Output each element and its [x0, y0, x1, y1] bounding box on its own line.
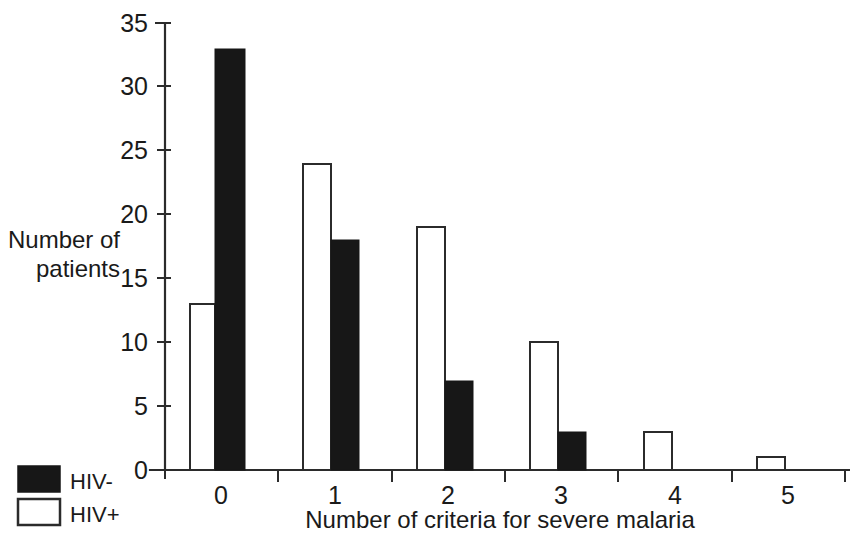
legend-label-hiv-positive: HIV+ [70, 502, 120, 527]
y-tick-label-10: 10 [120, 328, 148, 356]
bar-hivpos-cat1 [303, 164, 331, 470]
bar-hivpos-cat0 [190, 304, 215, 470]
x-tick-marks [165, 462, 845, 482]
x-tick-label-5: 5 [781, 481, 795, 509]
y-tick-label-0: 0 [134, 456, 148, 484]
legend-swatch-hiv-positive [18, 499, 60, 525]
bar-chart: 35 30 25 20 15 10 5 0 [0, 0, 850, 536]
y-tick-label-5: 5 [134, 392, 148, 420]
bar-hivpos-cat4 [644, 432, 672, 470]
legend: HIV- HIV+ [18, 466, 120, 527]
legend-swatch-hiv-negative [18, 466, 60, 492]
y-tick-label-35: 35 [120, 9, 148, 37]
y-tick-label-30: 30 [120, 72, 148, 100]
bar-hivneg-cat1 [331, 240, 359, 470]
bar-hivpos-cat3 [530, 342, 558, 470]
y-tick-label-25: 25 [120, 136, 148, 164]
bar-hivneg-cat2 [445, 381, 473, 470]
legend-label-hiv-negative: HIV- [70, 469, 113, 494]
x-tick-label-1: 1 [328, 481, 342, 509]
y-axis-title: Number of patients [8, 226, 120, 282]
bar-hivpos-cat2 [417, 227, 445, 470]
x-tick-labels: 0 1 2 3 4 5 [214, 481, 795, 509]
x-tick-label-0: 0 [214, 481, 228, 509]
bar-hivpos-cat5 [757, 457, 785, 470]
y-tick-label-20: 20 [120, 200, 148, 228]
y-axis-title-line1: Number of [8, 226, 120, 253]
y-tick-label-15: 15 [120, 264, 148, 292]
chart-figure: 35 30 25 20 15 10 5 0 [0, 0, 850, 536]
bar-hivneg-cat3 [558, 432, 586, 470]
x-tick-label-2: 2 [441, 481, 455, 509]
x-tick-label-3: 3 [554, 481, 568, 509]
y-axis-title-line2: patients [36, 255, 120, 282]
bar-hivneg-cat0 [215, 49, 245, 470]
x-axis-title: Number of criteria for severe malaria [305, 506, 695, 533]
y-tick-labels: 35 30 25 20 15 10 5 0 [120, 9, 148, 484]
x-tick-label-4: 4 [668, 481, 682, 509]
